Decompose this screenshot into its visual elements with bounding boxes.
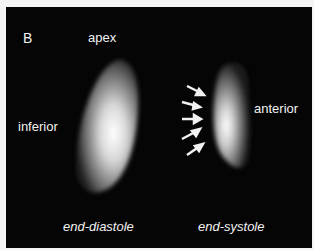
panel-label: B — [23, 30, 32, 46]
anterior-label: anterior — [254, 101, 298, 116]
arrow-icon — [187, 86, 204, 95]
apex-label: apex — [88, 30, 116, 45]
arrow-icon — [182, 129, 200, 139]
end-systole-caption: end-systole — [198, 219, 264, 234]
end-diastole-ventricle — [76, 60, 139, 193]
end-diastole-caption: end-diastole — [63, 219, 134, 234]
motion-arrows — [182, 86, 204, 155]
arrow-icon — [182, 115, 201, 123]
inferior-label: inferior — [18, 119, 58, 134]
end-systole-ventricle — [213, 63, 250, 168]
arrow-icon — [187, 144, 203, 155]
arrow-icon — [182, 102, 200, 109]
